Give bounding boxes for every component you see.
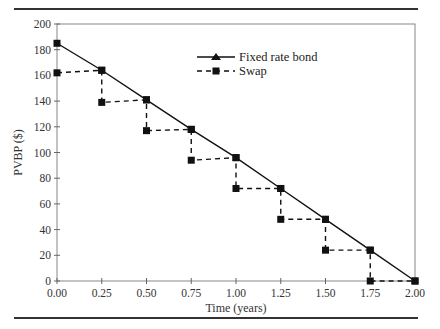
series-fixed-rate-bond (54, 40, 419, 285)
y-axis-title: PVBP ($) (11, 129, 25, 176)
data-point-swap (277, 216, 284, 223)
pvbp-chart: 020406080100120140160180200 0.000.250.50… (0, 0, 440, 329)
x-axis-title: Time (years) (205, 301, 266, 315)
y-tick-label: 180 (34, 44, 52, 56)
x-tick-label: 1.00 (226, 287, 246, 299)
x-tick-label: 0.00 (47, 287, 67, 299)
series-line-fixed-rate-bond (57, 43, 415, 281)
data-point-fixed-rate-bond (98, 67, 105, 74)
series-swap (54, 67, 419, 285)
legend-label-fixed-rate-bond: Fixed rate bond (239, 50, 318, 64)
legend-item-fixed-rate-bond: Fixed rate bond (197, 50, 318, 64)
x-tick-label: 1.75 (360, 287, 380, 299)
y-axis: 020406080100120140160180200 (34, 18, 60, 287)
data-point-swap (143, 127, 150, 134)
legend-label-swap: Swap (239, 64, 267, 78)
x-tick-label: 0.50 (136, 287, 156, 299)
x-tick-label: 1.50 (315, 287, 335, 299)
data-point-fixed-rate-bond (188, 126, 195, 133)
data-point-fixed-rate-bond (143, 96, 150, 103)
y-tick-label: 160 (34, 69, 52, 81)
data-point-swap (54, 69, 61, 76)
data-point-fixed-rate-bond (54, 40, 61, 47)
y-tick-label: 200 (34, 18, 52, 30)
data-point-swap (188, 157, 195, 164)
data-point-swap (233, 185, 240, 192)
legend-item-swap: Swap (197, 64, 267, 78)
y-tick-label: 60 (40, 198, 52, 210)
data-point-fixed-rate-bond (367, 247, 374, 254)
y-tick-label: 20 (40, 249, 52, 261)
x-tick-label: 2.00 (405, 287, 425, 299)
y-tick-label: 100 (34, 147, 52, 159)
x-tick-label: 0.25 (92, 287, 112, 299)
data-point-fixed-rate-bond (233, 154, 240, 161)
x-tick-label: 0.75 (181, 287, 201, 299)
square-marker-icon (213, 68, 220, 75)
series-line-swap (57, 70, 415, 281)
plot-frame (57, 24, 415, 281)
y-tick-label: 80 (40, 172, 52, 184)
y-tick-label: 140 (34, 95, 52, 107)
data-point-fixed-rate-bond (277, 185, 284, 192)
y-tick-label: 40 (40, 224, 52, 236)
y-tick-label: 0 (45, 275, 51, 287)
data-point-fixed-rate-bond (412, 278, 419, 285)
y-tick-label: 120 (34, 121, 52, 133)
data-point-swap (98, 99, 105, 106)
legend: Fixed rate bondSwap (197, 50, 318, 78)
data-point-swap (367, 278, 374, 285)
x-tick-label: 1.25 (271, 287, 291, 299)
data-point-swap (322, 247, 329, 254)
data-point-fixed-rate-bond (322, 216, 329, 223)
series-layer (54, 40, 419, 285)
